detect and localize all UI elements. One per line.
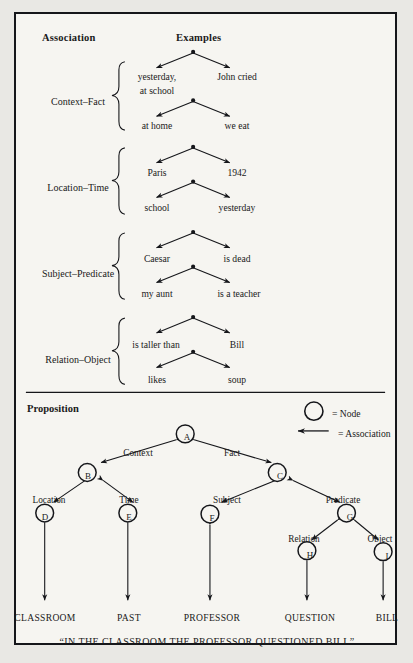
category-label-location-time: Location–Time <box>47 183 108 193</box>
example-term-left: likes <box>148 375 166 385</box>
terminal-past: PAST <box>117 613 141 623</box>
node-label-e: E <box>126 513 132 522</box>
tree-apex-dot <box>191 179 195 183</box>
node-label-g: G <box>347 513 354 522</box>
node-label-b: B <box>85 472 91 481</box>
edge-label-object: Object <box>368 535 393 544</box>
brace-context-fact <box>112 62 125 130</box>
example-term-right: 1942 <box>227 168 246 178</box>
example-term-right: yesterday <box>219 203 256 213</box>
example-term-left: is taller than <box>132 340 179 350</box>
terminal-arrows <box>45 523 383 600</box>
edge-label-location: Location <box>32 496 65 505</box>
category-label-subject-predicate: Subject–Predicate <box>42 269 114 279</box>
tree-apex-dot <box>191 145 195 149</box>
example-term-left-line2: at school <box>140 86 174 96</box>
example-term-right: soup <box>228 375 246 385</box>
tree-apex-dot <box>191 315 195 319</box>
tree-apex-dot <box>191 230 195 234</box>
category-label-context-fact: Context–Fact <box>51 97 105 107</box>
example-term-left: Caesar <box>144 254 170 264</box>
example-term-right: is a teacher <box>217 289 260 299</box>
figure-caption: “IN THE CLASSROOM THE PROFESSOR QUESTION… <box>60 637 355 647</box>
tree-apex-dot <box>191 98 195 102</box>
node-label-a: A <box>184 433 191 442</box>
terminal-professor: PROFESSOR <box>184 613 241 623</box>
figure-vector-layer <box>16 14 395 643</box>
example-term-right: is dead <box>224 254 251 264</box>
example-term-left: at home <box>142 121 173 131</box>
node-label-c: C <box>277 472 283 481</box>
terminal-question: QUESTION <box>285 613 335 623</box>
tree-apex-dot <box>191 265 195 269</box>
brace-subject-predicate <box>112 233 125 299</box>
edge-label-predicate: Predicate <box>326 496 361 505</box>
example-term-left: yesterday, <box>138 72 177 82</box>
figure-panel: Association Examples Context–Fact Locati… <box>14 12 397 645</box>
legend-node-label: = Node <box>332 409 361 419</box>
edge-label-fact: Fact <box>224 449 240 458</box>
node-circle-i <box>374 543 392 561</box>
example-tree <box>157 353 230 368</box>
example-tree <box>157 268 230 283</box>
node-label-i: I <box>386 552 389 561</box>
example-term-left: school <box>144 203 169 213</box>
column-header-examples: Examples <box>176 33 221 44</box>
terminal-bill: BILL <box>376 613 399 623</box>
brace-relation-object <box>112 318 125 384</box>
example-tree <box>157 183 230 198</box>
example-term-left: Paris <box>147 168 166 178</box>
edge-label-time: Time <box>119 496 138 505</box>
tree-apex-dot <box>191 350 195 354</box>
column-header-association: Association <box>42 33 96 44</box>
example-tree <box>157 318 230 333</box>
example-term-right: Bill <box>230 340 244 350</box>
example-tree <box>157 53 230 68</box>
proposition-edges <box>54 440 379 540</box>
legend-node-circle <box>305 402 323 420</box>
edge-label-relation: Relation <box>288 535 320 544</box>
legend-association-label: = Association <box>338 429 391 439</box>
example-term-left: my aunt <box>141 289 172 299</box>
node-label-d: D <box>42 513 49 522</box>
example-tree <box>157 233 230 248</box>
tree-apex-dot <box>191 50 195 54</box>
example-tree <box>157 101 230 116</box>
category-label-relation-object: Relation–Object <box>45 355 111 365</box>
edge-label-subject: Subject <box>213 496 241 505</box>
edge-label-context: Context <box>123 449 152 458</box>
terminal-classroom: CLASSROOM <box>14 613 75 623</box>
proposition-title: Proposition <box>27 404 79 415</box>
node-label-f: F <box>209 514 214 523</box>
example-term-right: John cried <box>217 72 257 82</box>
example-term-right: we eat <box>225 121 250 131</box>
node-label-h: H <box>307 551 314 560</box>
brace-location-time <box>112 148 125 214</box>
example-tree <box>157 148 230 163</box>
